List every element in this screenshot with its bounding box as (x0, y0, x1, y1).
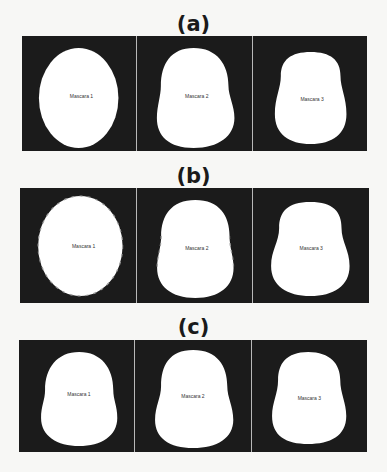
panel-c-mask-3: Mascara 3 (251, 340, 367, 452)
panel-b-title: (b) (0, 165, 387, 187)
panel-a-mask-3: Mascara 3 (252, 36, 367, 151)
panel-a-title: (a) (0, 13, 387, 35)
mask-label: Mascara 2 (181, 393, 204, 399)
head-mask-icon (253, 36, 367, 151)
mask-label: Mascara 2 (185, 245, 208, 251)
panel-b-mask-2: Mascara 2 (136, 188, 253, 303)
mask-label: Mascara 3 (300, 96, 323, 102)
mask-label: Mascara 3 (300, 245, 323, 251)
panel-a-mask-1: Mascara 1 (22, 36, 136, 151)
panel-b: Mascara 1 Mascara 2 Mascara 3 (20, 188, 369, 303)
mask-label: Mascara 1 (67, 391, 90, 397)
panel-b-mask-3: Mascara 3 (252, 188, 369, 303)
panel-c-mask-1: Mascara 1 (19, 340, 134, 452)
panel-b-mask-1: Mascara 1 (20, 188, 136, 303)
panel-c: Mascara 1 Mascara 2 Mascara 3 (19, 340, 367, 452)
mask-label: Mascara 1 (70, 93, 93, 99)
panel-a-mask-2: Mascara 2 (136, 36, 251, 151)
panel-c-title: (c) (0, 316, 387, 338)
mask-label: Mascara 2 (185, 93, 208, 99)
mask-label: Mascara 1 (72, 243, 95, 249)
panel-a: Mascara 1 Mascara 2 Mascara 3 (22, 36, 367, 151)
panel-c-mask-2: Mascara 2 (134, 340, 250, 452)
mask-label: Mascara 3 (298, 395, 321, 401)
